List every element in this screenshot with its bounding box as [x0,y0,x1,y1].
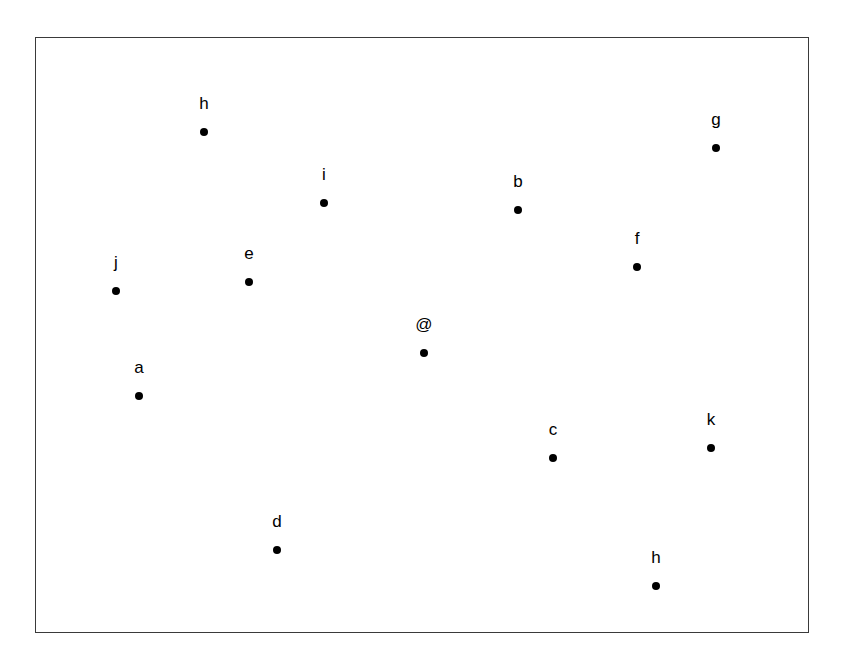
point-marker-dot [112,287,120,295]
point-label: f [617,230,657,247]
point-marker-dot [514,206,522,214]
point-marker-dot [420,349,428,357]
point-marker-dot [200,128,208,136]
point-label: h [636,549,676,566]
point-label: e [229,245,269,262]
point-marker-dot [549,454,557,462]
point-marker-dot [633,263,641,271]
point-marker-dot [245,278,253,286]
point-label: k [691,411,731,428]
point-label: j [96,254,136,271]
point-marker-dot [712,144,720,152]
point-marker-dot [135,392,143,400]
point-label: d [257,513,297,530]
point-label: b [498,173,538,190]
point-label: h [184,95,224,112]
plot-frame: hgibfej@akcdh [35,37,809,633]
point-label: @ [404,316,444,333]
point-marker-dot [652,582,660,590]
point-marker-dot [273,546,281,554]
point-marker-dot [320,199,328,207]
point-label: a [119,359,159,376]
point-marker-dot [707,444,715,452]
point-label: c [533,421,573,438]
point-label: g [696,111,736,128]
figure-canvas: hgibfej@akcdh [0,0,847,670]
point-label: i [304,166,344,183]
